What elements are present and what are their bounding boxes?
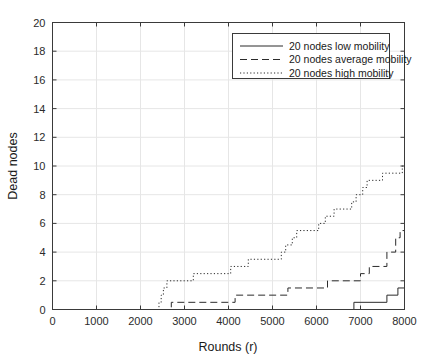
chart-figure: 010002000300040005000600070008000 024681… [0,0,430,359]
legend-label-2: 20 nodes high mobility [289,67,394,79]
x-axis-title: Rounds (r) [198,340,257,354]
y-tick-label: 18 [33,45,45,57]
y-tick-label: 12 [33,131,45,143]
y-tick-label: 14 [33,103,45,115]
x-tick-label: 5000 [260,315,284,327]
x-tick-label: 8000 [392,315,416,327]
x-tick-label: 3000 [172,315,196,327]
y-tick-label: 4 [39,246,45,258]
legend-label-1: 20 nodes average mobility [289,53,412,65]
x-tick-label: 2000 [128,315,152,327]
x-tick-label: 1000 [84,315,108,327]
y-tick-label: 6 [39,217,45,229]
legend-label-0: 20 nodes low mobility [289,40,390,52]
y-tick-label: 10 [33,160,45,172]
dead-nodes-vs-rounds-chart: 010002000300040005000600070008000 024681… [0,0,430,359]
y-tick-label: 2 [39,275,45,287]
y-tick-label: 16 [33,74,45,86]
y-tick-label: 20 [33,17,45,29]
x-tick-label: 4000 [216,315,240,327]
x-tick-label: 7000 [348,315,372,327]
y-axis-title: Dead nodes [6,132,20,199]
chart-legend: 20 nodes low mobility20 nodes average mo… [233,34,413,79]
x-tick-label: 6000 [304,315,328,327]
x-tick-label: 0 [49,315,55,327]
y-tick-label: 8 [39,189,45,201]
x-axis-tick-labels: 010002000300040005000600070008000 [49,315,416,327]
y-tick-label: 0 [39,304,45,316]
